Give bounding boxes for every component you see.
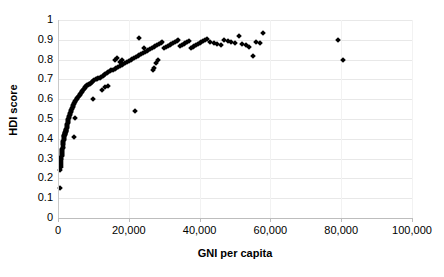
x-tick-label: 60,000	[254, 224, 288, 236]
gridline-horizontal	[58, 178, 412, 179]
y-tick-label: 0.2	[38, 172, 53, 183]
data-point	[236, 33, 242, 39]
data-point	[90, 96, 96, 102]
gridline-vertical	[270, 20, 271, 218]
x-tick-mark	[129, 218, 130, 222]
gridline-horizontal	[58, 99, 412, 100]
y-axis-title: HDI score	[7, 70, 19, 150]
gridline-vertical	[341, 20, 342, 218]
gridline-horizontal	[58, 20, 412, 21]
data-point	[218, 42, 224, 48]
x-tick-label: 40,000	[183, 224, 217, 236]
gridline-horizontal	[58, 119, 412, 120]
data-point	[186, 38, 192, 44]
y-tick-label: 0.1	[38, 192, 53, 203]
data-point	[132, 108, 138, 114]
x-tick-mark	[270, 218, 271, 222]
x-tick-mark	[341, 218, 342, 222]
y-tick-label: 0.4	[38, 133, 53, 144]
gridline-horizontal	[58, 79, 412, 80]
y-tick-label: 0.9	[38, 34, 53, 45]
x-tick-label: 100,000	[392, 224, 432, 236]
x-tick-mark	[58, 218, 59, 222]
data-point	[155, 57, 161, 63]
gridline-vertical	[200, 20, 201, 218]
y-tick-label: 1	[47, 14, 53, 25]
gridline-horizontal	[58, 198, 412, 199]
data-point	[260, 30, 266, 36]
scatter-chart: 00.10.20.30.40.50.60.70.80.91 020,00040,…	[0, 0, 444, 277]
y-tick-label: 0	[47, 212, 53, 223]
plot-area	[58, 20, 412, 218]
x-tick-label: 20,000	[112, 224, 146, 236]
x-tick-mark	[412, 218, 413, 222]
x-tick-label: 80,000	[324, 224, 358, 236]
y-tick-label: 0.7	[38, 73, 53, 84]
x-axis-title: GNI per capita	[58, 247, 412, 259]
y-tick-label: 0.3	[38, 153, 53, 164]
data-point	[250, 53, 256, 59]
gridline-horizontal	[58, 139, 412, 140]
gridline-horizontal	[58, 60, 412, 61]
gridline-vertical	[412, 20, 413, 218]
gridline-vertical	[129, 20, 130, 218]
data-point	[335, 37, 341, 43]
y-tick-label: 0.5	[38, 113, 53, 124]
data-point	[246, 44, 252, 50]
data-point	[340, 57, 346, 63]
y-tick-label: 0.8	[38, 54, 53, 65]
y-tick-label: 0.6	[38, 93, 53, 104]
x-axis-line	[58, 218, 412, 219]
data-point	[176, 37, 182, 43]
y-axis-line	[58, 20, 59, 219]
gridline-horizontal	[58, 159, 412, 160]
x-tick-label: 0	[55, 224, 61, 236]
x-tick-mark	[200, 218, 201, 222]
